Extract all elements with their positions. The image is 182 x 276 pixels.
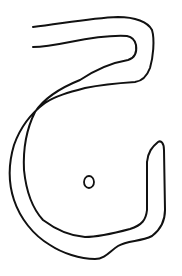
center-circle (84, 176, 94, 188)
drawing-canvas (0, 0, 182, 276)
hook-outline-shape (10, 17, 165, 259)
line-drawing (0, 0, 182, 276)
